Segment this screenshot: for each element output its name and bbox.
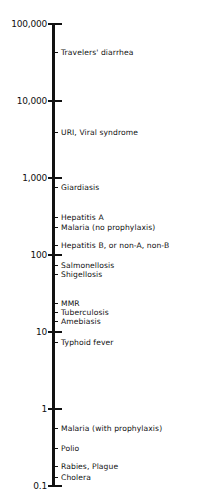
disease-label: Typhoid fever — [61, 338, 114, 347]
data-point-tick — [54, 265, 58, 266]
data-point-tick — [54, 274, 58, 275]
tick-label: 1,000 — [22, 173, 47, 183]
disease-label: Rabies, Plague — [61, 462, 118, 471]
disease-label: URI, Viral syndrome — [61, 128, 138, 137]
disease-label: Cholera — [61, 473, 91, 482]
data-point-tick — [54, 428, 58, 429]
disease-label: Salmonellosis — [61, 261, 114, 270]
disease-label: Amebiasis — [61, 317, 101, 326]
data-point-tick — [54, 217, 58, 218]
major-tick — [48, 254, 62, 256]
disease-label: Hepatitis B, or non-A, non-B — [61, 241, 169, 250]
data-point-tick — [54, 321, 58, 322]
tick-label: 10,000 — [17, 96, 47, 106]
disease-label: Hepatitis A — [61, 213, 104, 222]
disease-label: Malaria (no prophylaxis) — [61, 223, 155, 232]
tick-label: 100,000 — [11, 19, 47, 29]
disease-label: Malaria (with prophylaxis) — [61, 424, 162, 433]
major-tick — [48, 23, 62, 25]
major-tick — [48, 100, 62, 102]
tick-label: 1 — [41, 404, 47, 414]
log-scale-chart: 100,00010,0001,0001001010.1Travelers' di… — [0, 0, 199, 496]
data-point-tick — [54, 477, 58, 478]
tick-label: 0.1 — [33, 481, 47, 491]
disease-label: Travelers' diarrhea — [61, 48, 133, 57]
tick-label: 10 — [36, 327, 47, 337]
data-point-tick — [54, 312, 58, 313]
data-point-tick — [54, 227, 58, 228]
major-tick — [48, 177, 62, 179]
disease-label: Shigellosis — [61, 270, 102, 279]
data-point-tick — [54, 342, 58, 343]
data-point-tick — [54, 466, 58, 467]
major-tick — [48, 408, 62, 410]
data-point-tick — [54, 52, 58, 53]
disease-label: MMR — [61, 299, 80, 308]
data-point-tick — [54, 448, 58, 449]
disease-label: Tuberculosis — [61, 308, 109, 317]
data-point-tick — [54, 303, 58, 304]
disease-label: Giardiasis — [61, 183, 99, 192]
data-point-tick — [54, 132, 58, 133]
tick-label: 100 — [30, 250, 47, 260]
major-tick — [48, 485, 62, 487]
disease-label: Polio — [61, 444, 79, 453]
data-point-tick — [54, 245, 58, 246]
major-tick — [48, 331, 62, 333]
data-point-tick — [54, 187, 58, 188]
